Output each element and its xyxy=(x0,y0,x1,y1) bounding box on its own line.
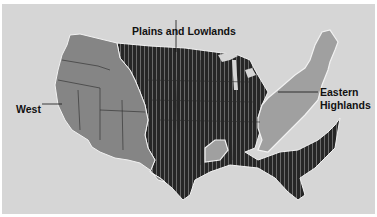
map-frame: Plains and Lowlands West Eastern Highlan… xyxy=(2,4,375,214)
label-eastern-highlands-line2: Highlands xyxy=(320,99,371,111)
label-plains-and-lowlands: Plains and Lowlands xyxy=(132,25,236,37)
label-west: West xyxy=(16,103,41,115)
label-eastern-highlands-line1: Eastern xyxy=(320,86,359,98)
